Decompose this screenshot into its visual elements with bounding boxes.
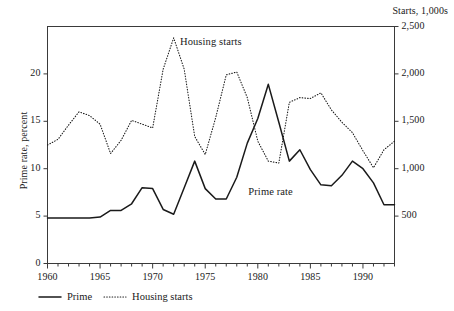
left-axis-tick-label: 5 bbox=[35, 209, 40, 220]
x-axis-ticks bbox=[48, 264, 395, 269]
right-axis-tick-label: 500 bbox=[402, 209, 417, 220]
series-annotation-housing-starts: Housing starts bbox=[180, 36, 242, 47]
right-axis-tick-label: 1,000 bbox=[402, 162, 425, 173]
x-axis-tick-label: 1990 bbox=[343, 271, 383, 282]
chart-legend: PrimeHousing starts bbox=[38, 291, 192, 302]
right-axis-tick-label: 2,000 bbox=[402, 67, 425, 78]
legend-swatch-dotted-line-icon bbox=[103, 293, 127, 301]
left-axis-tick-label: 10 bbox=[30, 162, 40, 173]
series-line-housing-starts bbox=[48, 38, 395, 168]
right-axis-tick-label: 1,500 bbox=[402, 114, 425, 125]
plot-area bbox=[0, 0, 454, 311]
series-line-prime bbox=[48, 84, 395, 218]
left-axis-tick-label: 15 bbox=[30, 114, 40, 125]
legend-label: Housing starts bbox=[132, 291, 192, 302]
left-axis-tick-label: 0 bbox=[35, 257, 40, 268]
right-axis-tick-label: 2,500 bbox=[402, 20, 425, 31]
x-axis-tick-label: 1975 bbox=[185, 271, 225, 282]
x-axis-tick-label: 1960 bbox=[28, 271, 68, 282]
legend-item-prime[interactable]: Prime bbox=[38, 291, 92, 302]
x-axis-tick-label: 1980 bbox=[238, 271, 278, 282]
legend-label: Prime bbox=[67, 291, 92, 302]
x-axis-tick-label: 1985 bbox=[290, 271, 330, 282]
right-axis-ticks bbox=[395, 27, 399, 217]
chart-figure: Starts, 1,000s Prime rate, percent 05101… bbox=[0, 0, 454, 311]
legend-swatch-solid-line-icon bbox=[38, 293, 62, 301]
legend-item-housing-starts[interactable]: Housing starts bbox=[103, 291, 192, 302]
series-annotation-prime-rate: Prime rate bbox=[248, 186, 292, 197]
x-axis-tick-label: 1965 bbox=[80, 271, 120, 282]
left-axis-tick-label: 20 bbox=[30, 67, 40, 78]
x-axis-tick-label: 1970 bbox=[133, 271, 173, 282]
plot-frame bbox=[48, 27, 395, 264]
left-axis-ticks bbox=[44, 74, 48, 264]
